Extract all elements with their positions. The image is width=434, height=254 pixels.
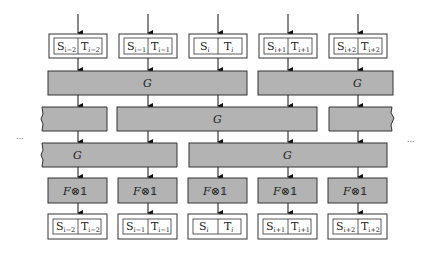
- t-index: i−1: [158, 46, 170, 54]
- svg-text:F⊗𝟙: F⊗𝟙: [132, 185, 158, 198]
- t-index: i: [231, 46, 233, 54]
- state-box-col-4: Si+1 Ti+1: [259, 34, 317, 58]
- state-box-col-1: Si−2 Ti−2: [48, 214, 107, 239]
- input-state-row: Si−2 Ti−2 Si−1 Ti−1 Si Ti Si+1 Ti+1: [49, 34, 387, 58]
- g-block-continued-right: [329, 107, 394, 131]
- local-gate-row: F⊗𝟙 F⊗𝟙 F⊗𝟙 F⊗𝟙 F⊗𝟙: [48, 178, 387, 203]
- s-index: i+2: [345, 46, 357, 54]
- local-gate-col-4: F⊗𝟙: [258, 178, 317, 203]
- s-label: S: [200, 40, 208, 53]
- svg-text:F⊗𝟙: F⊗𝟙: [62, 185, 88, 198]
- t-index: i+1: [298, 46, 310, 54]
- t-index: i−2: [88, 46, 100, 54]
- s-label: S: [127, 40, 135, 53]
- local-gate-col-5: F⊗𝟙: [328, 178, 387, 203]
- ellipsis-left: ···: [16, 134, 24, 143]
- g-block-continued-left: [41, 107, 107, 131]
- s-index: i−2: [65, 46, 77, 54]
- t-index: i+2: [368, 46, 380, 54]
- ellipsis-right: ···: [407, 137, 415, 146]
- s-label: S: [267, 40, 275, 53]
- svg-text:G: G: [73, 149, 82, 162]
- local-gate-col-2: F⊗𝟙: [118, 178, 177, 203]
- s-index: i+1: [275, 46, 287, 54]
- brickwork-circuit-diagram: ··· ···: [0, 0, 434, 254]
- gate-row-3: G G: [41, 143, 387, 167]
- g-block: G: [48, 71, 247, 95]
- svg-text:F⊗𝟙: F⊗𝟙: [202, 185, 228, 198]
- s-index: i−1: [135, 46, 147, 54]
- state-box-col-3: Si Ti: [188, 214, 247, 239]
- state-box-col-2: Si−1 Ti−1: [118, 214, 177, 239]
- gate-row-2: G: [41, 107, 394, 131]
- g-block-continued-left: G: [41, 143, 177, 167]
- state-box-col-1: Si−2 Ti−2: [49, 34, 107, 58]
- s-label: S: [337, 40, 345, 53]
- state-box-col-2: Si−1 Ti−1: [119, 34, 177, 58]
- output-state-row: Si−2 Ti−2 Si−1 Ti−1 Si Ti Si+1 Ti+1: [48, 214, 387, 239]
- local-gate-col-1: F⊗𝟙: [48, 178, 107, 203]
- g-block: G: [258, 71, 393, 95]
- svg-text:G: G: [143, 77, 152, 90]
- s-label: S: [57, 40, 65, 53]
- svg-text:G: G: [213, 113, 222, 126]
- state-box-col-4: Si+1 Ti+1: [258, 214, 317, 239]
- state-box-col-5: Si+2 Ti+2: [328, 214, 387, 239]
- state-box-col-5: Si+2 Ti+2: [329, 34, 387, 58]
- svg-text:G: G: [353, 77, 362, 90]
- gate-row-1: G G: [48, 71, 393, 95]
- s-index: i: [208, 46, 210, 54]
- state-box-col-3: Si Ti: [189, 34, 247, 58]
- svg-text:F⊗𝟙: F⊗𝟙: [272, 185, 298, 198]
- g-block: G: [117, 107, 317, 131]
- g-block: G: [189, 143, 387, 167]
- local-gate-col-3: F⊗𝟙: [188, 178, 247, 203]
- svg-text:G: G: [283, 149, 292, 162]
- svg-text:F⊗𝟙: F⊗𝟙: [342, 185, 368, 198]
